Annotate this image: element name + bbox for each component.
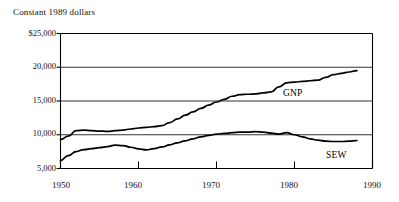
x-axis-ticks xyxy=(61,159,373,169)
chart-figure: Constant 1989 dollars $25,000 20,000 15,… xyxy=(0,0,399,202)
series-line-sew xyxy=(61,132,357,161)
gridlines xyxy=(61,34,373,169)
y-axis-ticks xyxy=(57,34,61,169)
series-line-gnp xyxy=(61,71,357,140)
plot-area xyxy=(0,0,399,202)
